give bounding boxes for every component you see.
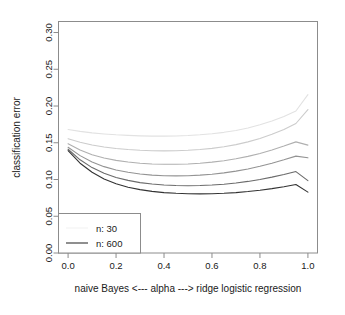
y-tick-label-0: 0.00 bbox=[43, 244, 54, 263]
y-tick-label-2: 0.10 bbox=[43, 170, 54, 189]
chart-legend: n: 30 n: 600 bbox=[59, 214, 141, 254]
y-tick-label-6: 0.30 bbox=[43, 23, 54, 42]
y-tick-label-5: 0.25 bbox=[43, 60, 54, 79]
x-tick-label-3: 0.6 bbox=[205, 260, 218, 271]
legend-label-1: n: 600 bbox=[96, 238, 122, 249]
x-tick-label-1: 0.2 bbox=[109, 260, 122, 271]
y-tick-label-4: 0.20 bbox=[43, 97, 54, 116]
y-tick-label-3: 0.15 bbox=[43, 134, 54, 153]
classification-error-line-chart: 0.000.050.100.150.200.250.30 0.00.20.40.… bbox=[0, 0, 345, 315]
x-tick-label-2: 0.4 bbox=[157, 260, 170, 271]
x-tick-label-0: 0.0 bbox=[61, 260, 74, 271]
y-tick-label-1: 0.05 bbox=[43, 207, 54, 226]
x-axis-title: naive Bayes <--- alpha ---> ridge logist… bbox=[75, 283, 302, 294]
chart-figure: 0.000.050.100.150.200.250.30 0.00.20.40.… bbox=[0, 0, 345, 315]
legend-label-0: n: 30 bbox=[96, 223, 117, 234]
y-axis-title: classification error bbox=[11, 97, 22, 178]
x-tick-label-4: 0.8 bbox=[253, 260, 266, 271]
x-tick-label-5: 1.0 bbox=[301, 260, 314, 271]
